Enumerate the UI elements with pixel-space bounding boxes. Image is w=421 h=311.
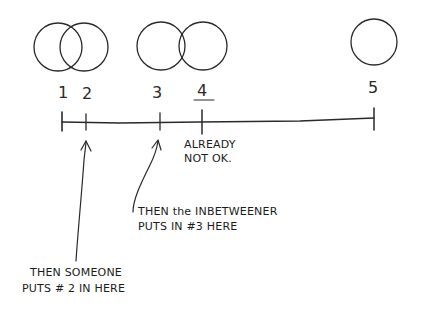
label-3: 3 [152, 83, 162, 102]
circle-3 [137, 22, 185, 70]
inbetweener-line-1: THEN the INBETWEENER [137, 205, 278, 218]
circle-4 [179, 22, 227, 70]
circle-5 [351, 19, 397, 65]
label-1: 1 [58, 83, 68, 102]
number-line-axis [62, 118, 374, 123]
someone-note: THEN SOMEONE PUTS # 2 IN HERE [22, 266, 125, 295]
circle-2 [60, 23, 108, 71]
circles [34, 19, 397, 71]
arrow-2-shaft [76, 141, 86, 261]
already-line-2: NOT OK. [184, 152, 232, 165]
already-not-ok-note: ALREADY NOT OK. [184, 138, 236, 165]
label-5: 5 [368, 78, 378, 97]
number-line [62, 108, 374, 134]
circle-1 [34, 23, 82, 71]
diagram-canvas: 1 2 3 4 5 ALREADY NOT OK. THEN the INBET… [0, 0, 421, 311]
inbetweener-line-2: PUTS IN #3 HERE [138, 220, 237, 233]
arrow-to-2 [76, 141, 91, 261]
already-line-1: ALREADY [184, 138, 236, 151]
label-4: 4 [197, 81, 207, 100]
position-labels: 1 2 3 4 5 [58, 78, 378, 103]
someone-line-1: THEN SOMEONE [29, 266, 122, 279]
inbetweener-note: THEN the INBETWEENER PUTS IN #3 HERE [137, 205, 278, 233]
label-2: 2 [82, 84, 92, 103]
arrow-to-3 [133, 140, 161, 212]
arrow-3-shaft [133, 141, 158, 212]
someone-line-2: PUTS # 2 IN HERE [22, 282, 125, 295]
